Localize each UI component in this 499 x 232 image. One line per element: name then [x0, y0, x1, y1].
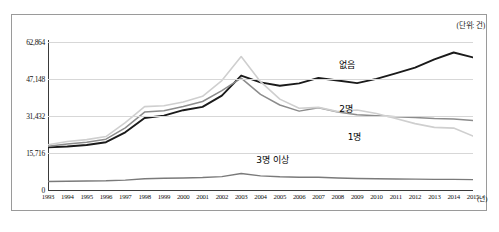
x-axis-tick: 2011: [390, 193, 402, 200]
x-axis-tick: 1995: [80, 193, 92, 200]
y-axis-tick: 62,864: [26, 38, 45, 47]
x-axis-tick: 2004: [254, 193, 266, 200]
x-axis-tick: 1996: [100, 193, 112, 200]
plot-area: [48, 42, 473, 190]
x-axis-tick: 2005: [274, 193, 286, 200]
x-axis-tick-labels: 1993199419951996199719981999200020012002…: [48, 193, 473, 209]
y-axis-tick: 47,148: [26, 75, 45, 84]
gridline: [48, 116, 473, 117]
x-axis-tick: 1994: [61, 193, 73, 200]
series-label: 3명 이상: [256, 153, 289, 166]
x-axis-unit-label: (년): [477, 193, 488, 203]
x-axis-tick: 2001: [196, 193, 208, 200]
x-axis-tick: 1993: [42, 193, 54, 200]
x-axis-tick: 2012: [409, 193, 421, 200]
gridline: [48, 79, 473, 80]
x-axis-tick: 2010: [370, 193, 382, 200]
chart-figure: (단위: 건) 015,71631,43247,14862,864 199319…: [0, 0, 499, 232]
y-axis-tick-labels: 015,71631,43247,14862,864: [0, 0, 45, 232]
x-axis-tick: 1999: [158, 193, 170, 200]
y-axis-tick: 15,716: [26, 149, 45, 158]
series-label: 2명: [339, 102, 353, 115]
y-axis-tick: 31,432: [26, 112, 45, 121]
x-axis-tick: 2008: [332, 193, 344, 200]
series-label: 1명: [348, 130, 362, 143]
x-axis-tick: 2009: [351, 193, 363, 200]
figure-caption: [0, 220, 499, 232]
series-line: [48, 174, 473, 182]
x-axis-tick: 2000: [177, 193, 189, 200]
series-label: 없음: [339, 58, 355, 71]
unit-note-label: (단위: 건): [456, 19, 485, 30]
x-axis-tick: 1998: [138, 193, 150, 200]
x-axis-line: [48, 190, 473, 191]
x-axis-tick: 2013: [428, 193, 440, 200]
x-axis-tick: 2003: [235, 193, 247, 200]
gridline: [48, 42, 473, 43]
x-axis-tick: 2002: [216, 193, 228, 200]
x-axis-tick: 2007: [312, 193, 324, 200]
x-axis-tick: 2014: [447, 193, 459, 200]
x-axis-tick: 2006: [293, 193, 305, 200]
series-line: [48, 78, 473, 146]
x-axis-tick: 1997: [119, 193, 131, 200]
